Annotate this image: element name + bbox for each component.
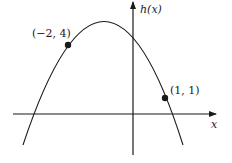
point-1-1 xyxy=(162,95,168,101)
point-a-label: (−2, 4) xyxy=(32,27,71,40)
y-axis-label: h(x) xyxy=(140,3,162,16)
parabola-curve xyxy=(23,22,183,146)
point-neg2-4 xyxy=(65,42,71,48)
point-b-label: (1, 1) xyxy=(170,84,200,97)
graph: h(x) x (−2, 4) (1, 1) xyxy=(0,0,232,163)
x-axis-label: x xyxy=(211,118,218,131)
